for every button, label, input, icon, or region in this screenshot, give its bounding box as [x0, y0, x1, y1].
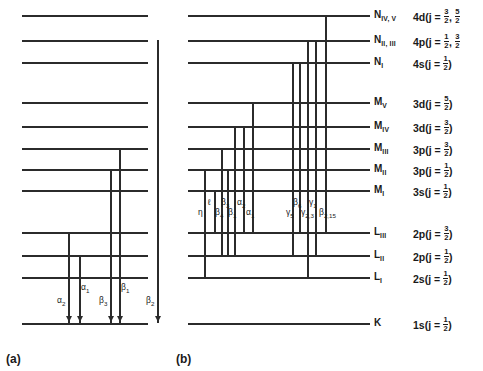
transition-line-b-5: [243, 126, 245, 232]
level-line-MIII-panel-a: [22, 148, 148, 150]
level-line-K-panel-a: [22, 323, 148, 325]
level-line-LI-panel-b: [188, 277, 370, 279]
energy-level-diagram: NIV, V4d(j = 32, 52NII, III4p(j = 12, 32…: [0, 0, 483, 371]
transition-label-b-10: γ1: [309, 198, 317, 209]
level-line-N45-panel-b: [188, 15, 370, 17]
level-line-K-panel-b: [188, 323, 370, 325]
level-config-label-LII: 2p(j = 12): [413, 249, 452, 265]
level-line-MI-panel-a: [22, 190, 148, 192]
transition-arrowhead-a-0: [66, 316, 72, 322]
level-line-N1-panel-b: [188, 62, 370, 64]
level-line-MIV-panel-a: [22, 126, 148, 128]
level-config-label-MIV: 3d(j = 32): [413, 120, 452, 136]
level-line-LIII-panel-b: [188, 232, 370, 234]
transition-label-a-1: α1: [81, 283, 89, 294]
level-shell-label-LIII: LIII: [374, 227, 386, 240]
level-line-N1-panel-a: [22, 62, 148, 64]
transition-label-b-2: β4: [215, 208, 223, 219]
level-line-LI-panel-a: [22, 277, 148, 279]
transition-line-b-9: [307, 40, 309, 277]
panel-caption-b: (b): [176, 352, 191, 366]
level-line-MV-panel-b: [188, 102, 370, 104]
level-config-label-MV: 3d(j = 52): [413, 96, 452, 112]
transition-arrowhead-a-1: [77, 316, 83, 322]
level-line-LIII-panel-a: [22, 232, 148, 234]
level-line-MIV-panel-b: [188, 126, 370, 128]
transition-line-a-0: [68, 232, 70, 323]
level-config-label-MII: 3p(j = 12): [413, 163, 452, 179]
level-line-MII-panel-b: [188, 169, 370, 171]
level-shell-label-N23: NII, III: [374, 35, 396, 48]
level-line-N23-panel-a: [22, 40, 148, 42]
level-line-LII-panel-a: [22, 255, 148, 257]
level-shell-label-LI: LI: [374, 272, 382, 285]
transition-label-a-4: β2: [146, 296, 154, 307]
transition-arrowhead-a-4: [155, 316, 161, 322]
transition-line-b-0: [204, 169, 206, 277]
level-shell-label-MV: MV: [374, 97, 387, 110]
level-config-label-LIII: 2p(j = 32): [413, 226, 452, 242]
level-line-N45-panel-a: [22, 15, 148, 17]
level-config-label-MIII: 3p(j = 32): [413, 142, 452, 158]
panel-caption-a: (a): [6, 352, 21, 366]
level-config-label-N45: 4d(j = 32, 52: [413, 9, 460, 25]
level-config-label-N1: 4s(j = 12): [413, 56, 452, 72]
transition-line-b-11: [325, 15, 327, 232]
transition-label-a-2: β3: [99, 296, 107, 307]
transition-line-a-2: [110, 169, 112, 323]
transition-label-b-5: α2: [237, 198, 245, 209]
transition-line-b-7: [292, 62, 294, 255]
level-config-label-K: 1s(j = 12): [413, 317, 452, 333]
level-shell-label-K: K: [374, 318, 381, 328]
transition-label-b-11: β2,15: [319, 208, 336, 219]
transition-label-b-0: η: [198, 208, 203, 217]
level-line-MV-panel-a: [22, 102, 148, 104]
transition-line-b-4: [234, 126, 236, 255]
transition-label-a-3: β1: [121, 283, 129, 294]
transition-arrowhead-a-2: [108, 316, 114, 322]
level-config-label-N23: 4p(j = 12, 32: [413, 34, 460, 50]
transition-label-b-9: γ2,3: [301, 208, 314, 219]
level-shell-label-MIV: MIV: [374, 121, 389, 134]
level-shell-label-N45: NIV, V: [374, 10, 396, 23]
transition-line-a-3: [119, 148, 121, 323]
level-shell-label-LII: LII: [374, 250, 384, 263]
level-config-label-MI: 3s(j = 12): [413, 184, 452, 200]
transition-label-b-6: α1: [246, 208, 254, 219]
transition-line-a-4: [157, 40, 159, 323]
transition-line-b-10: [315, 40, 317, 255]
level-line-MIII-panel-b: [188, 148, 370, 150]
level-line-N23-panel-b: [188, 40, 370, 42]
transition-label-b-1: ℓ: [208, 198, 211, 207]
level-shell-label-MII: MII: [374, 164, 387, 177]
level-line-MII-panel-a: [22, 169, 148, 171]
transition-label-b-4: β1: [228, 208, 236, 219]
level-shell-label-N1: NI: [374, 57, 383, 70]
level-shell-label-MI: MI: [374, 185, 384, 198]
transition-label-b-7: γ5: [286, 208, 294, 219]
level-line-LII-panel-b: [188, 255, 370, 257]
level-config-label-LI: 2s(j = 12): [413, 271, 452, 287]
transition-label-a-0: α2: [57, 296, 65, 307]
transition-arrowhead-a-3: [117, 316, 123, 322]
level-shell-label-MIII: MIII: [374, 143, 389, 156]
